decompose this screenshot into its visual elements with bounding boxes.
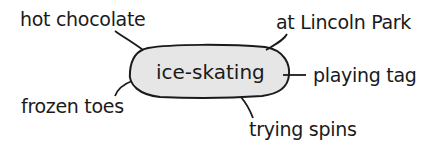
connector-hot-chocolate bbox=[115, 31, 143, 50]
node-frozen-toes: frozen toes bbox=[21, 95, 124, 117]
connector-trying-spins bbox=[241, 97, 253, 118]
node-playing-tag: playing tag bbox=[313, 64, 417, 86]
node-at-lincoln-park: at Lincoln Park bbox=[276, 11, 411, 33]
word-web-diagram: hot chocolate at Lincoln Park playing ta… bbox=[0, 0, 427, 147]
center-topic: ice-skating bbox=[156, 60, 265, 84]
connector-lincoln-park bbox=[266, 34, 287, 50]
node-hot-chocolate: hot chocolate bbox=[20, 8, 146, 30]
connector-frozen-toes bbox=[115, 81, 132, 96]
node-trying-spins: trying spins bbox=[249, 118, 357, 140]
